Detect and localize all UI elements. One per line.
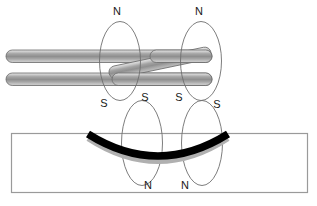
label-north-bottom-right: N bbox=[181, 179, 189, 191]
label-north-top-left: N bbox=[113, 5, 121, 17]
label-north-bottom-left: N bbox=[144, 179, 152, 191]
label-north-top-right: N bbox=[195, 5, 203, 17]
label-south-upper-mid-left: S bbox=[141, 91, 148, 103]
label-south-upper-right: S bbox=[213, 98, 220, 110]
label-south-upper-mid-right: S bbox=[175, 91, 182, 103]
label-south-upper-left: S bbox=[100, 97, 107, 109]
coil-rod-return-lower-body bbox=[112, 73, 212, 86]
coil-rod-return-lower bbox=[112, 73, 212, 86]
magnetic-field-diagram: N N S S S S N N bbox=[0, 0, 317, 206]
diagram-canvas: N N S S S S N N bbox=[0, 0, 317, 206]
